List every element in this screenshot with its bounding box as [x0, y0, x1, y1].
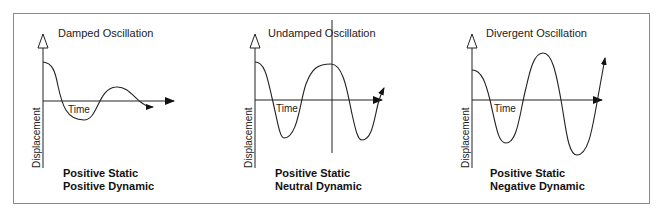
panel-title: Divergent Oscillation: [486, 27, 587, 39]
dynamic-stability: Negative Dynamic: [490, 180, 585, 193]
stability-label: Positive Static Neutral Dynamic: [275, 167, 362, 193]
panel-title: Damped Oscillation: [58, 27, 153, 39]
y-axis-label: Displacement: [243, 107, 254, 168]
panel-damped: [38, 34, 174, 168]
y-axis-label: Displacement: [31, 107, 42, 168]
static-stability: Positive Static: [63, 167, 154, 180]
x-axis-label: Time: [494, 103, 516, 114]
x-axis-label: Time: [68, 104, 90, 115]
panel-title: Undamped Oscillation: [268, 27, 376, 39]
panel-divergent: [467, 34, 605, 168]
static-stability: Positive Static: [275, 167, 362, 180]
y-axis-arrow-icon: [467, 34, 477, 48]
panel-undamped: [250, 20, 384, 168]
stability-label: Positive Static Positive Dynamic: [63, 167, 154, 193]
x-axis-label: Time: [276, 103, 298, 114]
dynamic-stability: Neutral Dynamic: [275, 180, 362, 193]
stability-label: Positive Static Negative Dynamic: [490, 167, 585, 193]
y-axis-label: Displacement: [460, 107, 471, 168]
static-stability: Positive Static: [490, 167, 585, 180]
dynamic-stability: Positive Dynamic: [63, 180, 154, 193]
damped-curve: [43, 62, 153, 120]
divergent-curve: [472, 53, 605, 155]
y-axis-arrow-icon: [38, 34, 48, 48]
y-axis-arrow-icon: [250, 34, 260, 48]
undamped-curve: [255, 62, 384, 140]
